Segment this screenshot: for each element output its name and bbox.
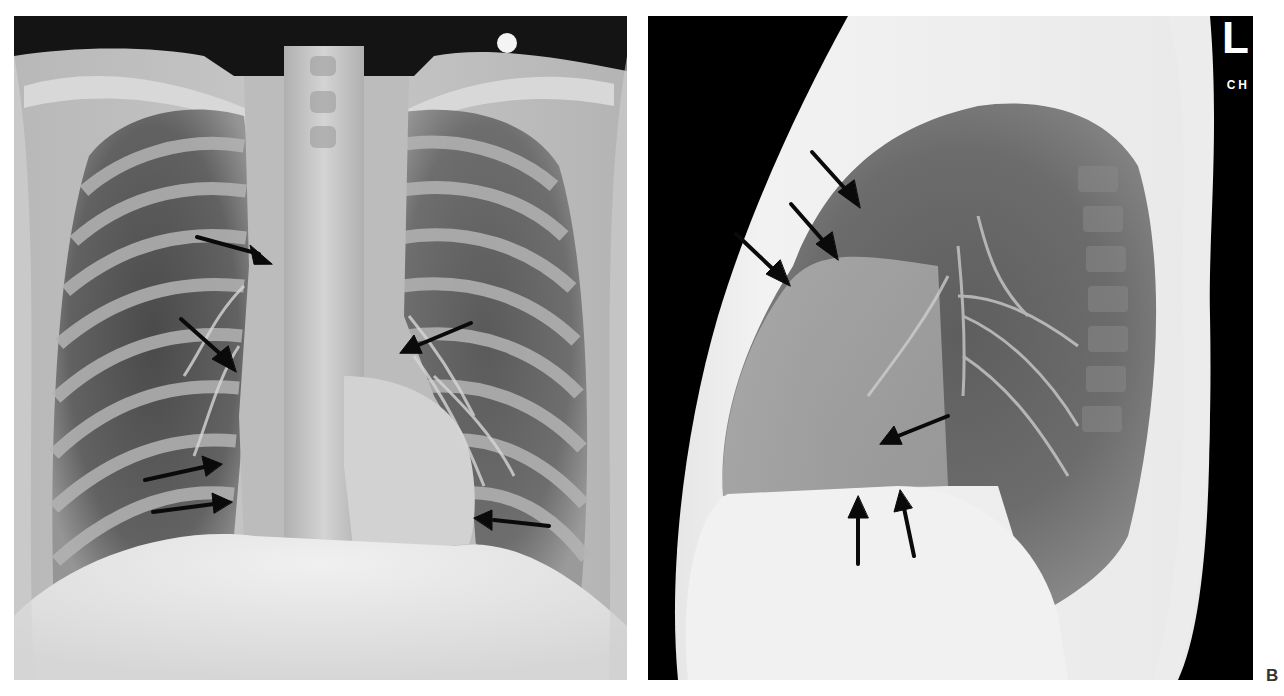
lateral-xray-image bbox=[648, 16, 1253, 680]
tech-marker: CH bbox=[1227, 78, 1250, 92]
pa-chest-radiograph bbox=[14, 16, 627, 680]
side-marker-L: L bbox=[1222, 16, 1249, 60]
lateral-chest-radiograph: L CH bbox=[648, 16, 1253, 680]
pa-xray-image bbox=[14, 16, 627, 680]
panel-label: B bbox=[1266, 666, 1278, 686]
